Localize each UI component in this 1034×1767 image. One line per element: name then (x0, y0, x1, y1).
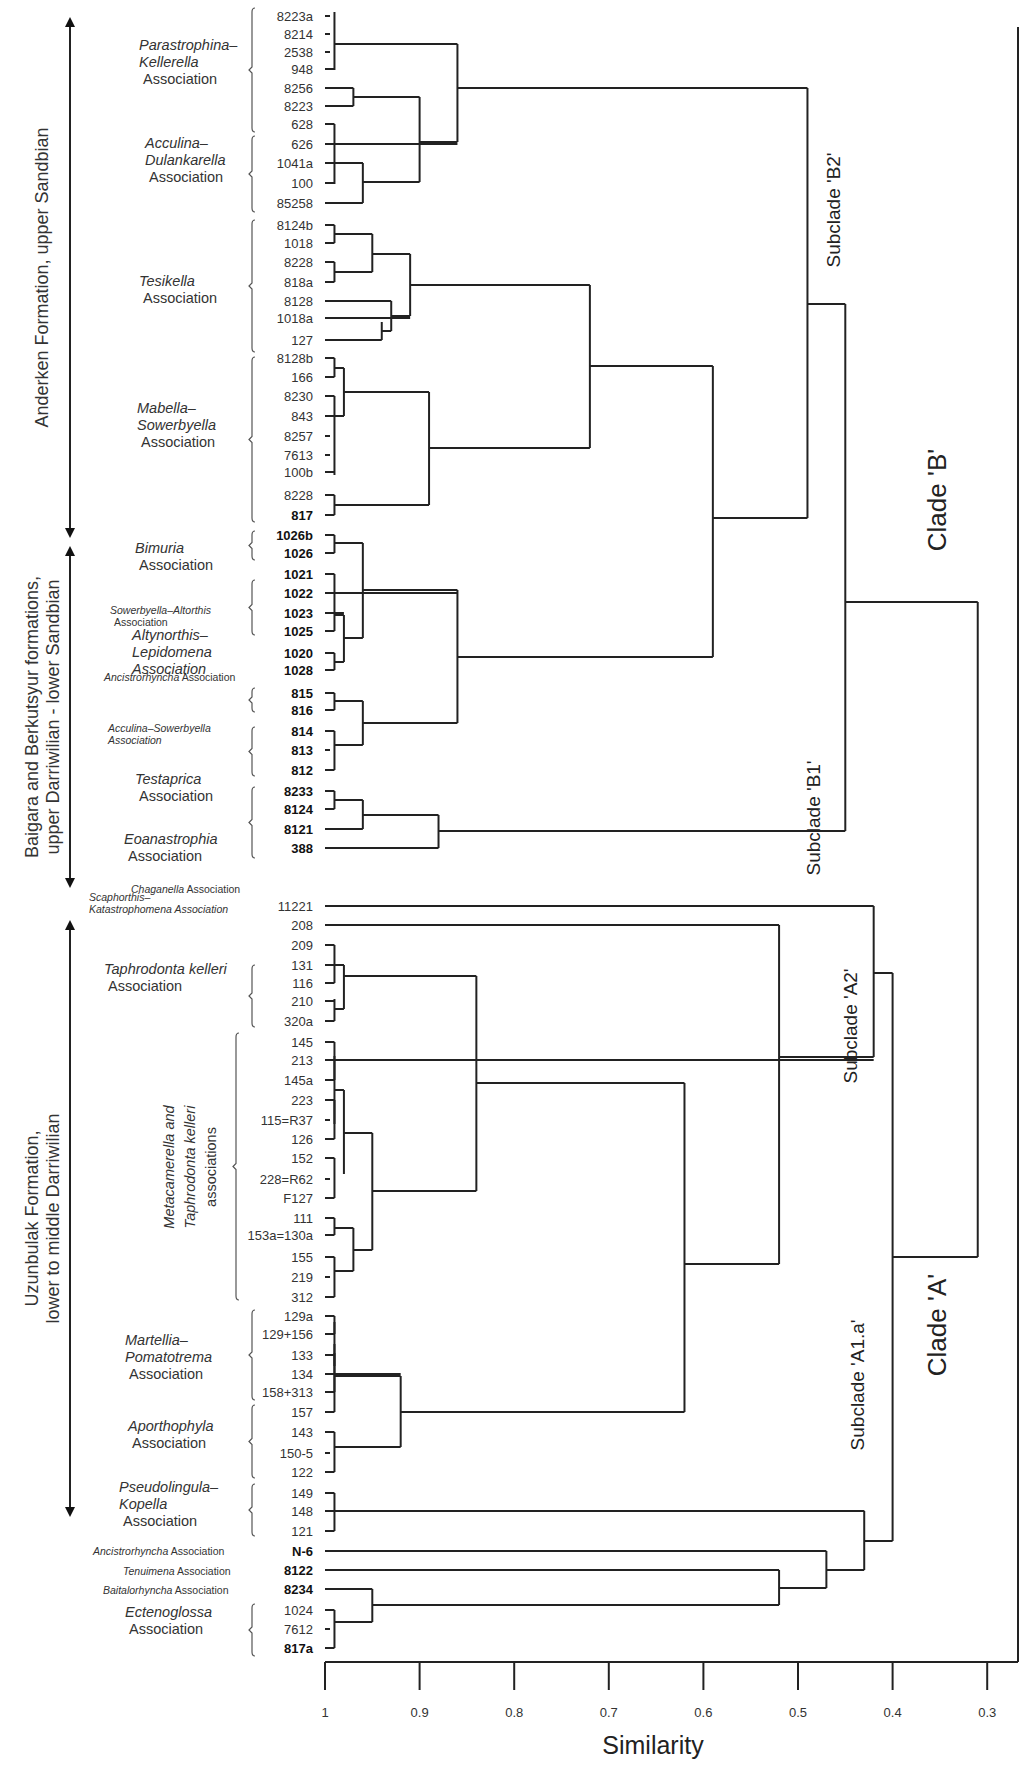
sample-label: 209 (291, 938, 313, 953)
svg-text:Association: Association (143, 290, 217, 306)
arrow-up-icon (65, 920, 75, 930)
brace (249, 787, 255, 858)
svg-text:Acculina–Sowerbyella: Acculina–Sowerbyella (107, 722, 211, 734)
svg-text:Tenuimena Association: Tenuimena Association (123, 1565, 231, 1577)
sample-label: 115=R37 (261, 1113, 313, 1128)
sample-labels: 8223a82142538948825682236286261041a10085… (248, 9, 314, 1656)
sample-label: 129+156 (262, 1327, 313, 1342)
svg-text:Subclade 'B1': Subclade 'B1' (803, 760, 824, 875)
sample-label: 126 (291, 1132, 313, 1147)
x-axis: Similarity 10.90.80.70.60.50.40.3 (321, 27, 1018, 1759)
sample-label: 817a (284, 1641, 314, 1656)
svg-text:Clade 'A': Clade 'A' (922, 1274, 952, 1376)
sample-label: 843 (291, 409, 313, 424)
dendrogram-chart: Anderken Formation, upper SandbianBaigar… (0, 0, 1034, 1767)
svg-text:Uzunbulak Formation,: Uzunbulak Formation, (22, 1130, 42, 1306)
brace (249, 1405, 255, 1478)
association-labels: Parastrophina–KellerellaAssociationAccul… (89, 8, 255, 1656)
svg-text:Eoanastrophia: Eoanastrophia (124, 831, 218, 847)
svg-text:Tesikella: Tesikella (139, 273, 195, 289)
sample-label: 814 (291, 724, 313, 739)
svg-text:Pseudolingula–: Pseudolingula– (119, 1479, 219, 1495)
sample-label: 815 (291, 686, 313, 701)
clade-label: Subclade 'A2' (840, 968, 861, 1083)
sample-label: 166 (291, 370, 313, 385)
sample-label: 1018 (284, 236, 313, 251)
svg-text:Association: Association (149, 169, 223, 185)
x-tick-label: 0.9 (411, 1705, 429, 1720)
svg-text:Kellerella: Kellerella (139, 54, 199, 70)
association-label: Martellia–PomatotremaAssociation (125, 1310, 255, 1400)
sample-label: 133 (291, 1348, 313, 1363)
sample-label: 11221 (278, 899, 313, 914)
svg-text:Association: Association (132, 1435, 206, 1451)
svg-text:upper Darriwilian - lower Sand: upper Darriwilian - lower Sandbian (43, 579, 63, 854)
svg-text:associations: associations (203, 1127, 219, 1207)
svg-text:Altynorthis–: Altynorthis– (131, 627, 209, 643)
x-tick-label: 0.4 (884, 1705, 902, 1720)
sample-label: 816 (291, 703, 313, 718)
svg-text:Association: Association (128, 848, 202, 864)
sample-label: 8230 (284, 389, 313, 404)
brace (249, 136, 255, 212)
svg-text:Mabella–: Mabella– (137, 400, 197, 416)
sample-label: 1026 (284, 546, 313, 561)
sample-label: 1024 (284, 1603, 313, 1618)
svg-text:Martellia–: Martellia– (125, 1332, 189, 1348)
brace (249, 8, 255, 132)
sample-label: 158+313 (262, 1385, 313, 1400)
association-label: Taphrodonta kelleriAssociation (104, 961, 255, 1027)
metacamerella-label: Metacamerella andTaphrodonta kelleriasso… (161, 1104, 219, 1228)
sample-label: 320a (284, 1014, 314, 1029)
clade-label: Subclade 'A1.a' (847, 1320, 868, 1451)
sample-label: 8234 (284, 1582, 314, 1597)
stratigraphy-label: Uzunbulak Formation,lower to middle Darr… (22, 1113, 63, 1323)
sample-label: 8223 (284, 99, 313, 114)
x-tick-label: 0.3 (978, 1705, 996, 1720)
svg-text:Ectenoglossa: Ectenoglossa (125, 1604, 212, 1620)
svg-text:Ancistrorhyncha Association: Ancistrorhyncha Association (92, 1545, 224, 1557)
sample-label: 219 (291, 1270, 313, 1285)
association-label: Altynorthis–LepidomenaAssociation (131, 580, 255, 677)
sample-label: 1022 (284, 586, 313, 601)
x-tick-label: 0.6 (694, 1705, 712, 1720)
sample-label: 122 (291, 1465, 313, 1480)
sample-label: 388 (291, 841, 313, 856)
clade-label: Clade 'A' (922, 1274, 952, 1376)
brace (249, 688, 255, 712)
association-label: EctenoglossaAssociation (125, 1604, 255, 1656)
brace (249, 727, 255, 776)
sample-label: 85258 (277, 196, 313, 211)
clade-label: Subclade 'B1' (803, 760, 824, 875)
sample-label: 948 (291, 62, 313, 77)
sample-label: 1018a (277, 311, 314, 326)
sample-label: 116 (292, 976, 313, 991)
stratigraphy-label: Baigara and Berkutsyur formations,upper … (22, 576, 63, 858)
svg-text:Ancistrorhyncha Association: Ancistrorhyncha Association (103, 671, 235, 683)
svg-text:Association: Association (139, 557, 213, 573)
svg-text:lower to middle Darriwilian: lower to middle Darriwilian (43, 1113, 63, 1323)
svg-text:Katastrophomena Association: Katastrophomena Association (89, 903, 228, 915)
arrow-up-icon (65, 546, 75, 556)
brace (249, 1484, 255, 1536)
sample-label: 626 (291, 137, 313, 152)
sample-label: 8228 (284, 488, 313, 503)
arrow-down-icon (65, 528, 75, 538)
sample-label: 1020 (284, 646, 313, 661)
association-label: Tenuimena Association (123, 1565, 231, 1577)
sample-label: 208 (291, 918, 313, 933)
sample-label: 8223a (277, 9, 314, 24)
x-tick-label: 0.8 (505, 1705, 523, 1720)
svg-text:Clade 'B': Clade 'B' (922, 449, 952, 551)
sample-label: 8228 (284, 255, 313, 270)
arrow-down-icon (65, 1507, 75, 1517)
sample-label: 111 (293, 1211, 313, 1226)
sample-label: 100 (291, 176, 313, 191)
clade-label: Subclade 'B2' (823, 152, 844, 267)
association-label: Parastrophina–KellerellaAssociation (139, 8, 255, 132)
sample-label: 153a=130a (248, 1228, 314, 1243)
svg-text:Parastrophina–: Parastrophina– (139, 37, 238, 53)
sample-label: 223 (291, 1093, 313, 1108)
svg-text:Association: Association (129, 1366, 203, 1382)
svg-text:Association: Association (108, 978, 182, 994)
